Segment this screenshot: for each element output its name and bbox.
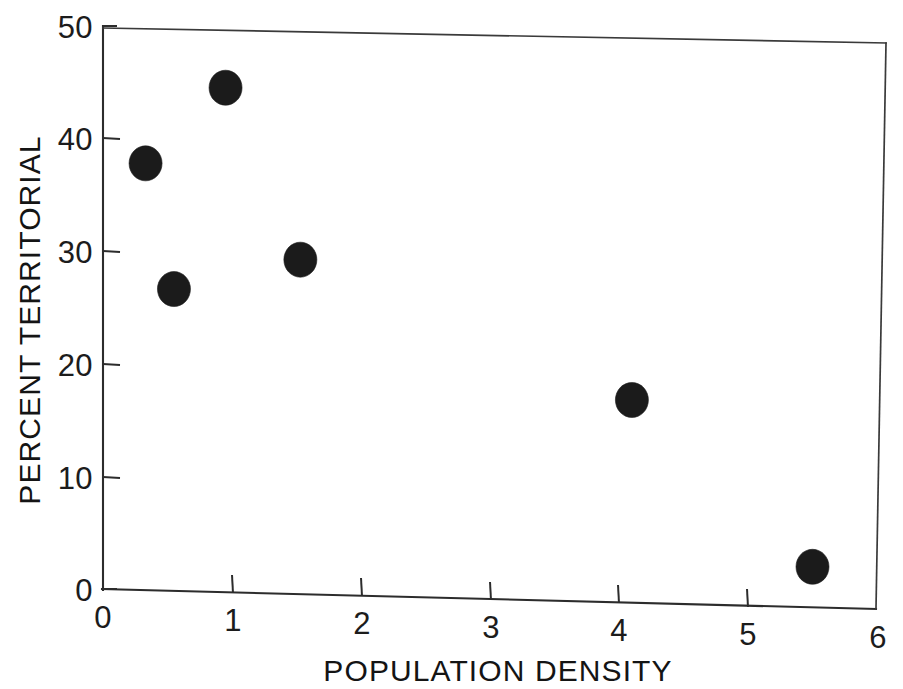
y-tick-20 [103, 364, 120, 365]
x-tick-label-6: 6 [869, 620, 887, 655]
scatter-plot-figure: 50 40 30 20 10 0 0 1 2 3 4 5 6 POPULATIO… [0, 0, 903, 689]
y-tick-marks [103, 26, 120, 589]
x-tick-2 [361, 578, 362, 596]
x-tick-label-4: 4 [610, 613, 628, 648]
y-tick-30 [103, 251, 120, 252]
x-axis-line [102, 589, 876, 609]
x-tick-label-5: 5 [739, 617, 757, 652]
x-tick-label-1: 1 [224, 603, 242, 638]
x-tick-5 [747, 589, 748, 607]
data-point [129, 146, 162, 181]
x-tick-marks [232, 575, 748, 607]
x-tick-1 [232, 575, 233, 593]
y-tick-40 [103, 138, 120, 139]
y-tick-label-20: 20 [58, 348, 93, 383]
y-tick-label-0: 0 [75, 573, 93, 608]
x-tick-3 [490, 582, 491, 600]
y-tick-10 [103, 477, 120, 478]
y-tick-labels: 50 40 30 20 10 0 [58, 10, 93, 608]
y-tick-label-30: 30 [58, 235, 93, 270]
plot-canvas: 50 40 30 20 10 0 0 1 2 3 4 5 6 POPULATIO… [0, 0, 903, 689]
y-tick-label-50: 50 [58, 10, 93, 45]
data-point [284, 242, 317, 277]
right-frame-line [876, 43, 886, 609]
x-tick-label-2: 2 [353, 606, 371, 641]
data-point [209, 70, 242, 105]
x-tick-labels: 0 1 2 3 4 5 6 [94, 600, 887, 655]
plot-frame [102, 26, 886, 609]
data-point-layer [129, 70, 829, 584]
x-tick-label-3: 3 [482, 610, 500, 645]
x-axis-title: POPULATION DENSITY [323, 654, 672, 687]
data-point [157, 272, 190, 307]
top-frame-line [103, 28, 886, 43]
data-point [796, 549, 829, 584]
y-tick-label-10: 10 [58, 461, 93, 496]
x-tick-4 [618, 585, 619, 603]
y-axis-title: PERCENT TERRITORIAL [13, 135, 46, 504]
x-tick-label-0: 0 [94, 600, 112, 635]
y-tick-label-40: 40 [58, 122, 93, 157]
data-point [615, 382, 648, 417]
